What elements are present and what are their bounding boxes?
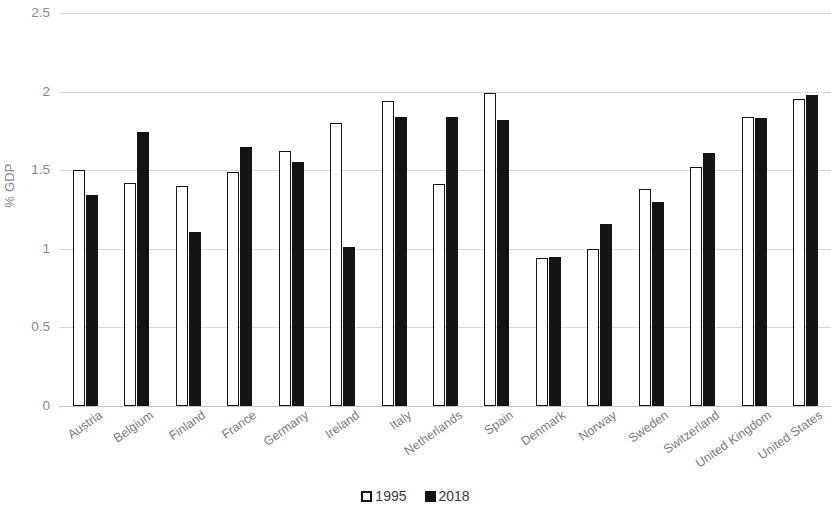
bar-1995[interactable] — [536, 258, 548, 406]
bar-group — [73, 13, 98, 406]
bar-group — [793, 13, 818, 406]
bar-2018[interactable] — [652, 202, 664, 406]
y-tick-label: 0 — [4, 399, 50, 413]
legend-swatch-2018 — [425, 491, 436, 502]
bar-2018[interactable] — [755, 118, 767, 406]
bar-group — [742, 13, 767, 406]
y-tick-label: 1.5 — [4, 163, 50, 177]
bar-group — [176, 13, 201, 406]
bar-1995[interactable] — [587, 249, 599, 406]
bar-1995[interactable] — [484, 93, 496, 406]
bar-chart: % GDP 00.511.522.5 AustriaBelgiumFinland… — [0, 0, 831, 514]
y-tick-label: 2 — [4, 85, 50, 99]
bar-2018[interactable] — [497, 120, 509, 406]
bar-1995[interactable] — [279, 151, 291, 406]
y-tick-label: 0.5 — [4, 321, 50, 335]
bar-1995[interactable] — [330, 123, 342, 406]
bar-2018[interactable] — [395, 117, 407, 406]
bar-group — [227, 13, 252, 406]
gridline — [59, 406, 831, 407]
bar-1995[interactable] — [433, 184, 445, 406]
bar-2018[interactable] — [600, 224, 612, 406]
legend-item[interactable]: 1995 — [361, 489, 406, 503]
legend-label: 2018 — [439, 489, 470, 503]
bar-1995[interactable] — [124, 183, 136, 406]
bar-group — [587, 13, 612, 406]
bar-group — [690, 13, 715, 406]
bar-2018[interactable] — [86, 195, 98, 406]
legend-swatch-1995 — [361, 491, 372, 502]
bar-group — [536, 13, 561, 406]
bar-2018[interactable] — [446, 117, 458, 406]
x-axis-labels: AustriaBelgiumFinlandFranceGermanyIrelan… — [59, 408, 831, 486]
bar-1995[interactable] — [176, 186, 188, 406]
bar-group — [484, 13, 509, 406]
bar-2018[interactable] — [806, 95, 818, 406]
bar-1995[interactable] — [742, 117, 754, 406]
bar-1995[interactable] — [639, 189, 651, 406]
bar-group — [639, 13, 664, 406]
bar-group — [382, 13, 407, 406]
bar-1995[interactable] — [73, 170, 85, 406]
bar-1995[interactable] — [690, 167, 702, 406]
bar-group — [433, 13, 458, 406]
bar-2018[interactable] — [292, 162, 304, 406]
y-axis-title: % GDP — [2, 151, 17, 221]
bar-2018[interactable] — [703, 153, 715, 406]
plot-area: 00.511.522.5 — [59, 13, 831, 406]
bar-1995[interactable] — [382, 101, 394, 406]
bar-2018[interactable] — [189, 232, 201, 406]
bar-2018[interactable] — [343, 247, 355, 406]
bar-group — [330, 13, 355, 406]
legend-label: 1995 — [375, 489, 406, 503]
bar-2018[interactable] — [137, 132, 149, 406]
y-tick-label: 1 — [4, 242, 50, 256]
chart-legend: 19952018 — [0, 489, 831, 503]
bar-2018[interactable] — [549, 257, 561, 406]
bar-group — [279, 13, 304, 406]
bar-groups — [59, 13, 831, 406]
bar-2018[interactable] — [240, 147, 252, 406]
y-tick-label: 2.5 — [4, 6, 50, 20]
bar-group — [124, 13, 149, 406]
bar-1995[interactable] — [227, 172, 239, 406]
bar-1995[interactable] — [793, 99, 805, 406]
legend-item[interactable]: 2018 — [425, 489, 470, 503]
